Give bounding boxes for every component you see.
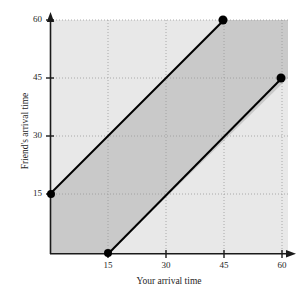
arrival-time-chart: 15 30 45 60 60 45 30 15 Your arrival tim…	[0, 0, 300, 296]
x-tick-label-45: 45	[212, 261, 236, 270]
x-axis-title: Your arrival time	[50, 276, 288, 286]
endpoint-marker-upper-right	[219, 16, 228, 25]
y-tick-label-60: 60	[18, 15, 42, 24]
endpoint-marker-lower-right	[277, 74, 286, 83]
plot-area	[0, 0, 300, 296]
x-tick-label-15: 15	[96, 261, 120, 270]
x-axis-arrow-icon	[286, 250, 296, 257]
endpoint-marker-upper-left	[47, 190, 55, 198]
y-axis-title: Friend's arrival time	[20, 56, 30, 206]
x-tick-label-30: 30	[154, 261, 178, 270]
x-tick-label-60: 60	[270, 261, 294, 270]
endpoint-marker-lower-left	[104, 249, 112, 257]
